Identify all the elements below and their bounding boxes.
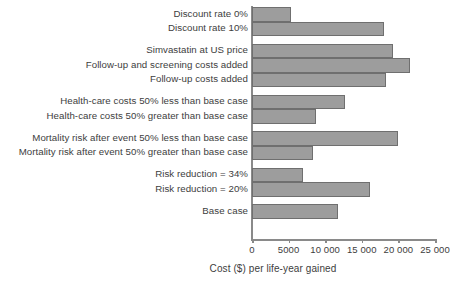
x-tick-10000 <box>325 239 327 243</box>
bar <box>252 58 410 73</box>
bar <box>252 7 291 22</box>
bar <box>252 204 338 219</box>
x-axis-line <box>251 239 436 241</box>
bar <box>252 44 393 59</box>
x-tick-label-25000: 25 000 <box>420 244 450 255</box>
x-tick-label-5000: 5000 <box>278 244 300 255</box>
category-label: Simvastatin at US price <box>146 45 248 55</box>
bar <box>252 182 370 197</box>
x-axis-title-text: Cost ($) per life-year gained <box>122 263 337 274</box>
category-label: Health-care costs 50% greater than base … <box>47 111 248 121</box>
category-label: Risk reduction = 34% <box>155 169 248 179</box>
x-tick-label-20000: 20 000 <box>384 244 414 255</box>
x-tick-label-0: 0 <box>249 244 254 255</box>
category-label: Follow-up and screening costs added <box>86 60 248 70</box>
category-label: Mortality risk after event 50% greater t… <box>19 147 248 157</box>
bar <box>252 73 386 88</box>
category-label: Risk reduction = 20% <box>155 184 248 194</box>
x-tick-15000 <box>362 239 364 243</box>
bar <box>252 168 303 183</box>
bar <box>252 131 398 146</box>
category-label: Health-care costs 50% less than base cas… <box>60 96 248 106</box>
tornado-bar-chart: 0500010 00015 00020 00025 000 Discount r… <box>0 0 458 284</box>
category-label: Discount rate 0% <box>173 9 248 19</box>
x-tick-0 <box>252 239 254 243</box>
bar <box>252 109 316 124</box>
category-label: Follow-up costs added <box>150 74 248 84</box>
x-tick-5000 <box>289 239 291 243</box>
bar <box>252 22 384 37</box>
x-tick-25000 <box>435 239 437 243</box>
plot-area: 0500010 00015 00020 00025 000 Discount r… <box>0 0 458 284</box>
bar <box>252 146 313 161</box>
category-label: Base case <box>202 206 248 216</box>
x-tick-20000 <box>398 239 400 243</box>
category-label: Discount rate 10% <box>168 23 248 33</box>
x-tick-label-10000: 10 000 <box>310 244 340 255</box>
x-axis-title: Cost ($) per life-year gained <box>0 263 458 274</box>
bar <box>252 95 345 110</box>
category-label: Mortality risk after event 50% less than… <box>32 133 248 143</box>
x-tick-label-15000: 15 000 <box>347 244 377 255</box>
